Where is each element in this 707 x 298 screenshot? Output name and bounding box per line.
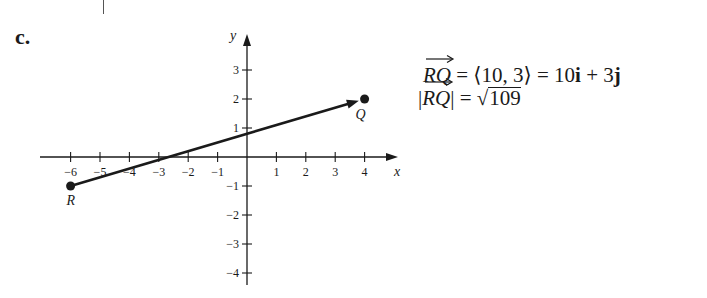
point-label-r: R bbox=[66, 193, 76, 208]
x-axis-arrow-icon bbox=[386, 153, 398, 161]
x-tick-label: 2 bbox=[303, 165, 309, 179]
y-axis-arrow-icon bbox=[243, 34, 251, 46]
x-axis-label: x bbox=[393, 164, 401, 179]
x-tick-label: −1 bbox=[211, 165, 224, 179]
point-q bbox=[360, 95, 369, 104]
vector-magnitude-equation: |RQ| = √109 bbox=[418, 86, 521, 111]
x-tick-label: 3 bbox=[332, 165, 338, 179]
coordinate-plot: xy−6−5−4−3−2−11234−4−3−2−1123RQ bbox=[0, 0, 707, 298]
y-tick-label: −2 bbox=[226, 208, 239, 222]
y-tick-label: −1 bbox=[226, 179, 239, 193]
y-tick-label: −4 bbox=[226, 266, 239, 280]
point-label-q: Q bbox=[356, 107, 366, 122]
x-tick-label: −3 bbox=[152, 165, 165, 179]
vector-rq: RQ bbox=[422, 86, 450, 111]
y-axis-label: y bbox=[228, 28, 237, 43]
x-tick-label: 4 bbox=[362, 165, 368, 179]
x-tick-label: −6 bbox=[64, 165, 77, 179]
x-tick-label: 1 bbox=[273, 165, 279, 179]
vector-arrow-icon bbox=[425, 54, 455, 64]
y-tick-label: −3 bbox=[226, 237, 239, 251]
y-tick-label: 3 bbox=[233, 63, 239, 77]
y-tick-label: 2 bbox=[233, 92, 239, 106]
y-tick-label: 1 bbox=[233, 121, 239, 135]
point-r bbox=[66, 182, 75, 191]
x-tick-label: −2 bbox=[182, 165, 195, 179]
vector-arrow-icon bbox=[424, 77, 454, 87]
